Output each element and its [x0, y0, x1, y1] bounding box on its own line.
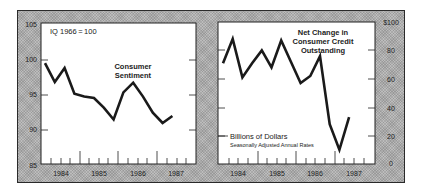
right-x-labels: 1984 1985 1986 1987: [230, 170, 362, 177]
left-plot-area: [41, 23, 196, 164]
y-label: 20: [387, 133, 395, 140]
left-x-labels: 1984 1985 1986 1987: [53, 170, 184, 177]
y-label: 60: [387, 76, 395, 83]
charts-canvas: 105 100 95 90 85 1984 1985 1986 1987 IQ …: [0, 0, 421, 193]
right-title-line2: Consumer Credit: [293, 37, 354, 46]
y-label: 85: [29, 162, 37, 169]
x-label: 1987: [346, 170, 362, 177]
x-label: 1984: [230, 170, 246, 177]
left-title-line2: Sentiment: [115, 71, 152, 80]
left-title-line1: Consumer: [114, 62, 151, 71]
left-chart: 105 100 95 90 85 1984 1985 1986 1987 IQ …: [25, 21, 196, 177]
left-y-labels: 105 100 95 90 85: [25, 21, 37, 169]
right-y-labels: $100 80 60 40 20 0: [383, 19, 399, 167]
x-label: 1984: [53, 170, 69, 177]
y-label: 80: [387, 47, 395, 54]
left-annotation: IQ 1966 = 100: [50, 27, 97, 36]
x-label: 1986: [307, 170, 323, 177]
y-label: 40: [387, 105, 395, 112]
y-label: $100: [383, 19, 399, 26]
y-label: 100: [25, 56, 37, 63]
right-chart: $100 80 60 40 20 0 1984 1985 1986 1987 N…: [218, 19, 399, 177]
y-label: 105: [25, 21, 37, 28]
right-title-line3: Outstanding: [301, 46, 346, 55]
right-unit-label: Billions of Dollars: [230, 132, 288, 141]
x-label: 1987: [168, 170, 184, 177]
right-unit-sublabel: Seasonally Adjusted Annual Rates: [230, 142, 314, 148]
y-label: 90: [29, 126, 37, 133]
y-label: 95: [29, 91, 37, 98]
right-title-line1: Net Change in: [298, 28, 349, 37]
x-label: 1986: [130, 170, 146, 177]
x-label: 1985: [269, 170, 285, 177]
x-label: 1985: [91, 170, 107, 177]
y-label: 0: [389, 160, 393, 167]
